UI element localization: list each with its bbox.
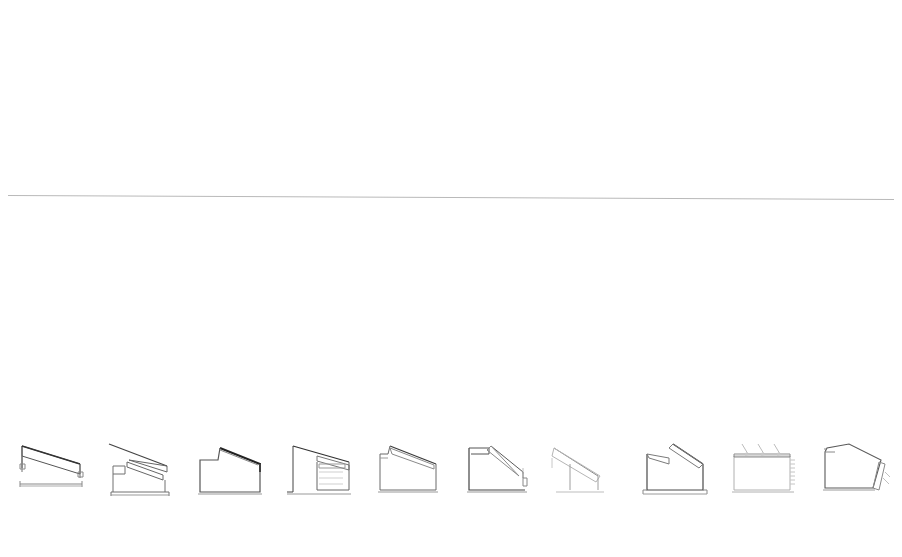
top-chart-plot	[0, 18, 902, 190]
section-thumbnails	[0, 438, 902, 506]
thumbnail-kansas[interactable]	[817, 438, 895, 504]
clipped-header-text	[600, 0, 902, 8]
thumbnail-madrid[interactable]	[550, 438, 628, 504]
top-chart	[0, 18, 902, 190]
bars-layer	[0, 246, 902, 436]
thumbnail-montreal[interactable]	[461, 438, 539, 504]
thumbnail-nyit[interactable]	[372, 438, 450, 504]
table-row	[0, 208, 902, 222]
thumbnail-georgia-tech[interactable]	[728, 438, 806, 504]
bottom-chart	[0, 246, 902, 436]
footer-labels	[0, 506, 902, 557]
thumbnail-maryland[interactable]	[105, 438, 183, 504]
thumbnail-colorado[interactable]	[194, 438, 272, 504]
metrics-table	[0, 194, 902, 246]
thumbnail-texas-am[interactable]	[283, 438, 361, 504]
table-row	[0, 222, 902, 236]
thumbnail-mit[interactable]	[639, 438, 717, 504]
table-row	[0, 194, 902, 208]
thumbnail-missouri-rolla[interactable]	[16, 438, 94, 504]
